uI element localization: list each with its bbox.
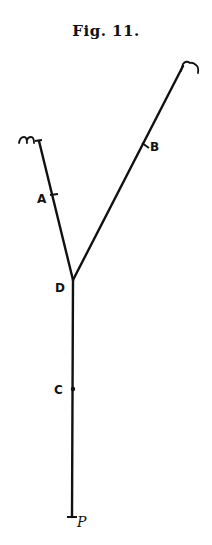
- left-arm-line: [39, 141, 73, 280]
- label-p: P: [76, 514, 87, 530]
- point-c-marker: [71, 387, 75, 391]
- line-diagram: A B C D P: [0, 0, 212, 545]
- label-b: B: [150, 140, 159, 154]
- right-arm-line: [73, 66, 183, 280]
- stem-line: [72, 280, 73, 517]
- m-end-glyph: [19, 137, 34, 143]
- label-d: D: [55, 281, 65, 295]
- point-a-tick: [50, 194, 58, 195]
- m-end-tick: [35, 140, 42, 141]
- label-a: A: [37, 192, 47, 206]
- label-c: C: [54, 383, 63, 397]
